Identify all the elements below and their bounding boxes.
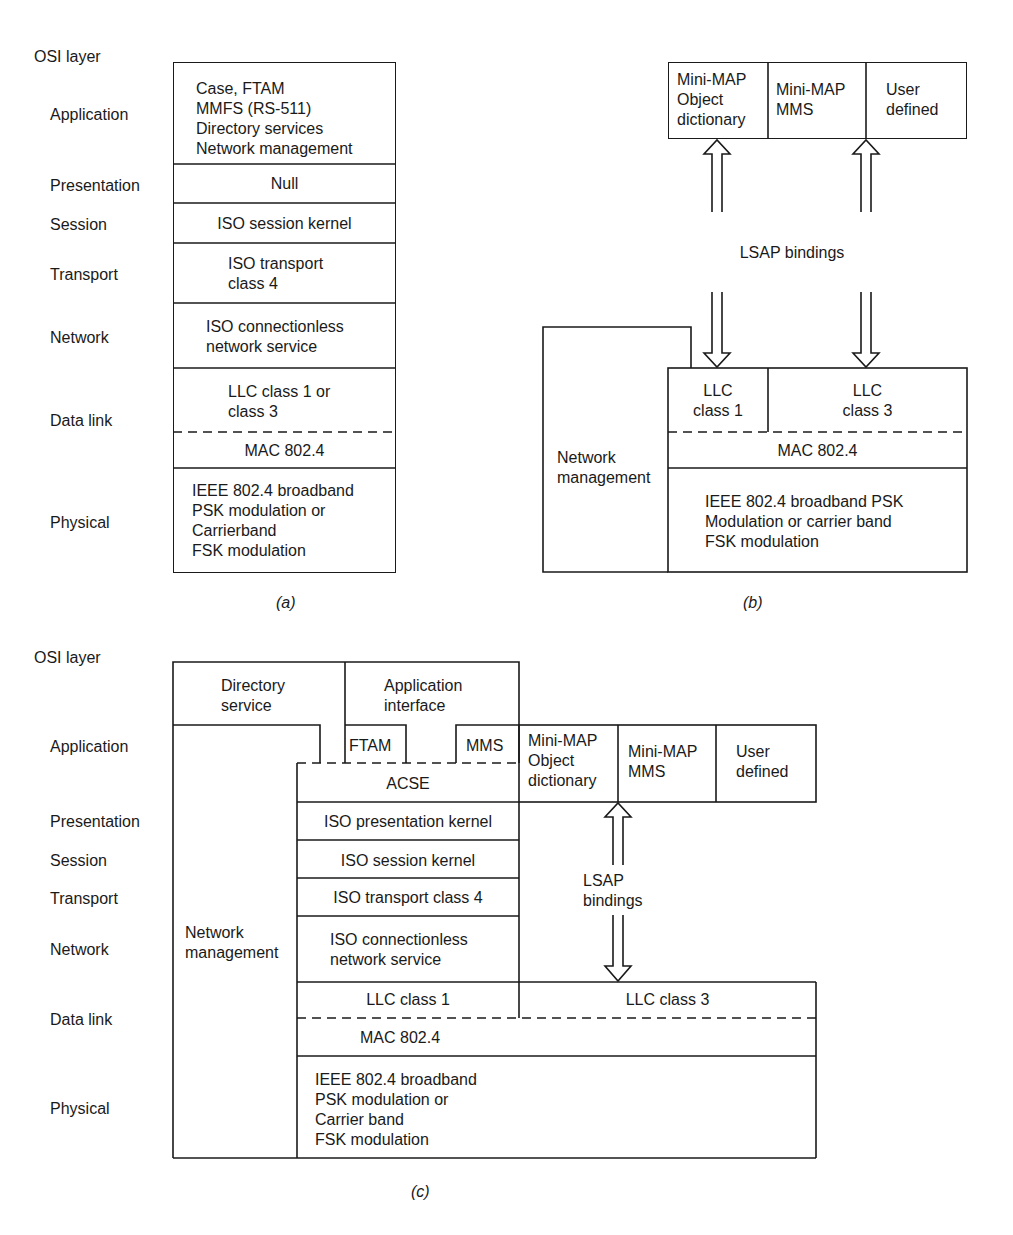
- arrow-up-icon: [704, 140, 879, 212]
- figure-caption-clipped: [150, 1228, 750, 1235]
- double-arrow-icon: [605, 803, 631, 981]
- diagram-lines: [0, 0, 1013, 1235]
- arrow-down-icon: [704, 292, 879, 367]
